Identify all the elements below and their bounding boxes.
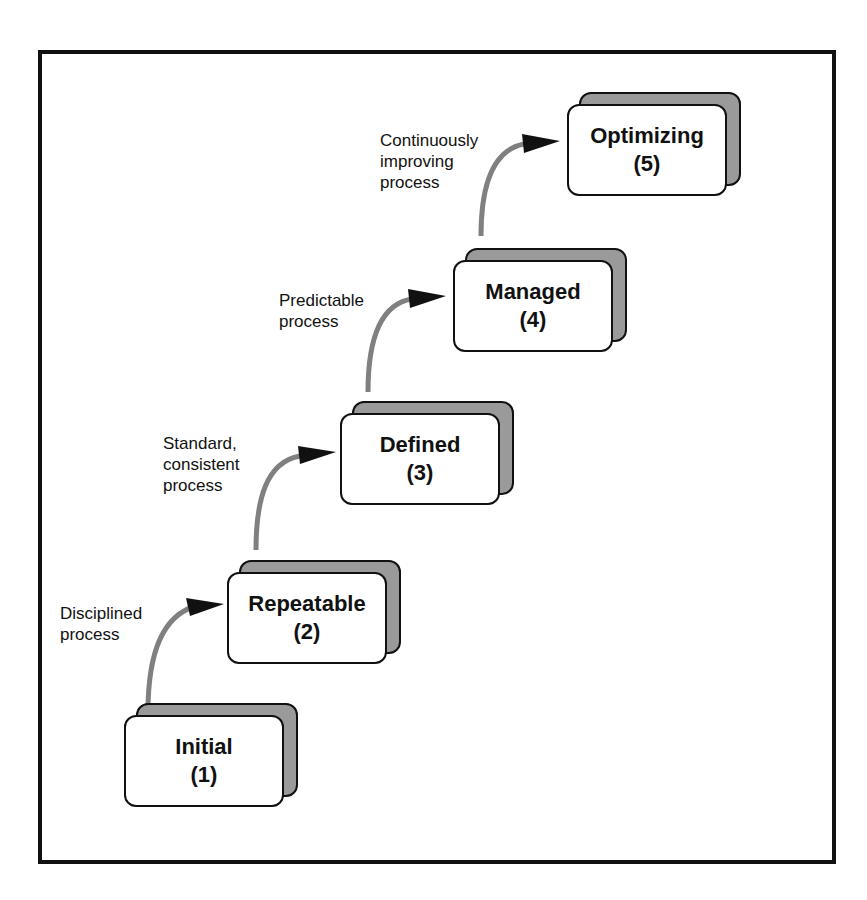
level-optimizing: Optimizing (5) (567, 92, 739, 196)
label-line: Standard, (163, 433, 240, 454)
transition-label-predictable: Predictable process (279, 290, 364, 332)
maturity-diagram: Disciplined process Standard, consistent… (0, 0, 867, 900)
level-name: Defined (380, 431, 461, 459)
label-line: process (163, 475, 240, 496)
level-number: (5) (634, 150, 661, 178)
transition-label-standard: Standard, consistent process (163, 433, 240, 496)
box-front: Managed (4) (453, 260, 613, 352)
arrow-repeatable-to-defined (256, 446, 336, 550)
transition-label-disciplined: Disciplined process (60, 603, 142, 645)
level-number: (3) (407, 459, 434, 487)
level-initial: Initial (1) (124, 703, 296, 807)
level-defined: Defined (3) (340, 401, 512, 505)
label-line: Disciplined (60, 603, 142, 624)
transition-label-continuously: Continuously improving process (380, 130, 478, 193)
box-front: Optimizing (5) (567, 104, 727, 196)
level-name: Optimizing (590, 122, 704, 150)
label-line: consistent (163, 454, 240, 475)
label-line: process (279, 311, 364, 332)
label-line: process (60, 624, 142, 645)
level-repeatable: Repeatable (2) (227, 560, 399, 664)
arrow-managed-to-optimizing (481, 134, 560, 236)
label-line: improving (380, 151, 478, 172)
box-front: Defined (3) (340, 413, 500, 505)
level-managed: Managed (4) (453, 248, 625, 352)
arrow-defined-to-managed (368, 289, 446, 392)
label-line: process (380, 172, 478, 193)
box-front: Initial (1) (124, 715, 284, 807)
box-front: Repeatable (2) (227, 572, 387, 664)
level-name: Managed (485, 278, 580, 306)
arrow-initial-to-repeatable (148, 598, 224, 712)
level-name: Initial (175, 733, 232, 761)
level-number: (4) (520, 306, 547, 334)
level-name: Repeatable (248, 590, 365, 618)
level-number: (2) (294, 618, 321, 646)
level-number: (1) (191, 761, 218, 789)
label-line: Continuously (380, 130, 478, 151)
label-line: Predictable (279, 290, 364, 311)
